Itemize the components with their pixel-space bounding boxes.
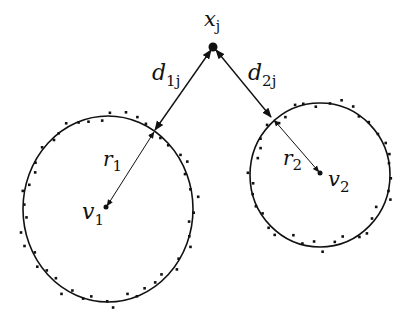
cluster-1-boundary xyxy=(23,116,193,302)
cluster-1: r1 v1 xyxy=(20,111,200,309)
distance-1j-label: d1j xyxy=(152,60,180,90)
radius-2-label: r2 xyxy=(283,146,302,174)
cluster-2-data-points xyxy=(247,99,393,253)
distance-2j-label: d2j xyxy=(248,60,276,90)
cluster-2: r2 v2 xyxy=(247,99,393,253)
diagram-canvas: r1 v1 r2 v2 d1j d2j xj xyxy=(0,0,416,330)
center-1-label: v1 xyxy=(82,199,104,229)
radius-1-label: r1 xyxy=(103,147,122,175)
cluster-1-data-points xyxy=(20,111,200,309)
point-xj xyxy=(209,43,218,52)
point-xj-label: xj xyxy=(204,7,220,34)
center-2-label: v2 xyxy=(328,167,349,196)
